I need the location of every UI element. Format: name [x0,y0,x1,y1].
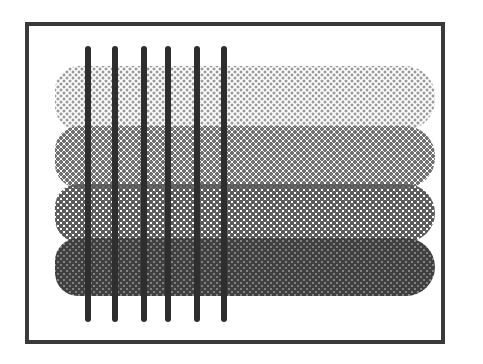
vertical-bar-1 [85,46,91,322]
vertical-bar-2 [112,46,118,322]
vertical-bar-4 [165,46,171,322]
vertical-bar-6 [221,46,227,322]
vertical-bar-3 [141,46,147,322]
vertical-bar-5 [194,46,200,322]
